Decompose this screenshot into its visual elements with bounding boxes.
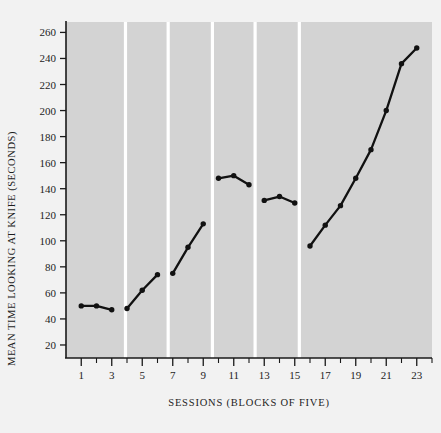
figure-container: MEAN TIME LOOKING AT KNIFE (SECONDS) 260… [0, 0, 441, 433]
data-point [277, 194, 282, 199]
data-point [79, 303, 84, 308]
data-point [124, 306, 129, 311]
x-tick-marks [81, 358, 432, 366]
data-point [216, 176, 221, 181]
data-point [338, 203, 343, 208]
data-point [170, 271, 175, 276]
y-tick-marks [60, 32, 66, 345]
data-point [109, 307, 114, 312]
data-point [94, 303, 99, 308]
data-point [292, 200, 297, 205]
data-point [384, 108, 389, 113]
phase-divider [254, 22, 257, 358]
plot-background [66, 22, 432, 358]
phase-divider [298, 22, 301, 358]
data-point [155, 272, 160, 277]
data-point [231, 173, 236, 178]
data-point [262, 198, 267, 203]
data-point [323, 222, 328, 227]
data-point [185, 245, 190, 250]
data-point [307, 243, 312, 248]
data-point [353, 176, 358, 181]
data-point [368, 147, 373, 152]
data-point [399, 61, 404, 66]
plot-svg [0, 0, 441, 433]
data-point [246, 182, 251, 187]
data-point [201, 221, 206, 226]
data-point [140, 288, 145, 293]
data-point [414, 45, 419, 50]
phase-divider [211, 22, 214, 358]
phase-divider [167, 22, 170, 358]
